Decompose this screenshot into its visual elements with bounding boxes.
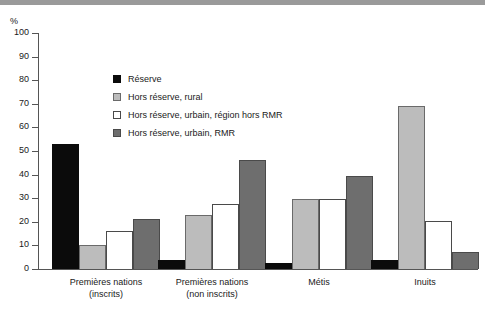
y-axis-tick-label: 30: [19, 192, 29, 202]
y-axis-tick-mark: [32, 80, 38, 81]
legend-item-label: Réserve: [128, 74, 162, 84]
legend-item: Hors réserve, urbain, RMR: [113, 124, 363, 142]
y-axis-tick-label: 80: [19, 74, 29, 84]
y-axis-tick-mark: [32, 175, 38, 176]
y-axis-tick-label: 40: [19, 169, 29, 179]
legend-swatch-icon: [113, 75, 121, 83]
chart-legend: RéserveHors réserve, ruralHors réserve, …: [113, 70, 363, 142]
bar: [398, 106, 425, 269]
bar-group-bars: [371, 33, 479, 269]
y-axis-unit-label: %: [10, 16, 18, 26]
y-axis-tick-mark: [32, 222, 38, 223]
x-axis-group-label-line1: Métis: [308, 277, 330, 287]
y-axis-tick-label: 20: [19, 216, 29, 226]
legend-swatch-icon: [113, 93, 121, 101]
x-axis-group-label-line2: (non inscrits): [122, 288, 302, 300]
legend-item: Réserve: [113, 70, 363, 88]
y-axis-tick-mark: [32, 245, 38, 246]
legend-swatch-icon: [113, 111, 121, 119]
y-axis-tick-label: 90: [19, 51, 29, 61]
bar: [452, 252, 479, 269]
legend-item: Hors réserve, rural: [113, 88, 363, 106]
y-axis-line: [38, 33, 39, 270]
y-axis-tick-mark: [32, 198, 38, 199]
x-axis-group-label: Inuits: [335, 276, 485, 288]
legend-item-label: Hors réserve, urbain, région hors RMR: [128, 110, 283, 120]
y-axis-tick-label: 60: [19, 121, 29, 131]
y-axis-tick-mark: [32, 57, 38, 58]
bar: [319, 199, 346, 269]
header-rule: [0, 0, 485, 5]
y-axis-tick-mark: [32, 127, 38, 128]
bar: [52, 144, 79, 269]
legend-item-label: Hors réserve, urbain, RMR: [128, 128, 235, 138]
y-axis-tick-label: 50: [19, 145, 29, 155]
legend-item-label: Hors réserve, rural: [128, 92, 203, 102]
legend-item: Hors réserve, urbain, région hors RMR: [113, 106, 363, 124]
bar: [79, 245, 106, 269]
y-axis-tick-label: 0: [24, 263, 29, 273]
bar: [346, 176, 373, 269]
y-axis-tick-mark: [32, 151, 38, 152]
bar-group-bars: [52, 33, 160, 269]
bar: [239, 160, 266, 269]
bar: [133, 219, 160, 269]
y-axis-tick-label: 70: [19, 98, 29, 108]
plot-area: 1009080706050403020100 Premières nations…: [38, 33, 478, 270]
bar-group-bars: [265, 33, 373, 269]
bar-group-bars: [158, 33, 266, 269]
bar: [371, 260, 398, 269]
legend-swatch-icon: [113, 129, 121, 137]
y-axis-tick-label: 100: [14, 27, 29, 37]
bar: [425, 221, 452, 269]
y-axis-tick-mark: [32, 269, 38, 270]
y-axis-tick-mark: [32, 33, 38, 34]
x-axis-line: [38, 269, 478, 270]
bar: [212, 204, 239, 269]
bar: [292, 199, 319, 269]
bar: [106, 231, 133, 269]
bar: [265, 263, 292, 269]
y-axis-tick-label: 10: [19, 239, 29, 249]
bar: [185, 215, 212, 269]
x-axis-group-label-line1: Inuits: [414, 277, 436, 287]
chart-figure: % 1009080706050403020100 Premières natio…: [0, 0, 485, 315]
y-axis-tick-mark: [32, 104, 38, 105]
bar: [158, 260, 185, 269]
